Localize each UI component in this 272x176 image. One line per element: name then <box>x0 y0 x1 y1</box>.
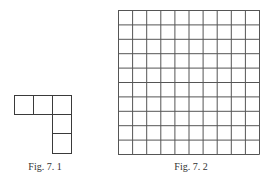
figure-7-2-grid <box>118 10 260 155</box>
figure-7-2-caption: Fig. 7. 2 <box>166 161 216 172</box>
figure-7-1-caption: Fig. 7. 1 <box>20 161 70 172</box>
l-shape-cell <box>14 95 34 115</box>
figure-7-1-l-shape <box>14 95 72 154</box>
l-shape-cell <box>52 114 72 134</box>
l-shape-cell <box>52 95 72 115</box>
l-shape-cell <box>52 133 72 154</box>
l-shape-cell <box>33 95 53 115</box>
